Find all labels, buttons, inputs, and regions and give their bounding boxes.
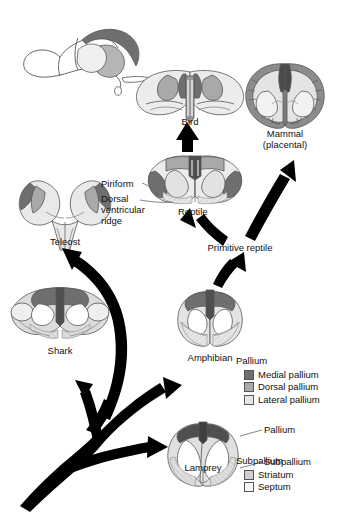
annotation-pallium-callout: Pallium <box>264 424 295 436</box>
swatch-striatum <box>244 470 254 480</box>
legend-item-striatum: Striatum <box>244 469 293 482</box>
figure-canvas: Bird Mammal (placental) Reptile Teleost … <box>0 0 341 522</box>
legend-label-dorsal-pallium: Dorsal pallium <box>258 381 318 394</box>
legend-item-lateral-pallium: Lateral pallium <box>244 394 320 407</box>
legend-subpallium-heading: Subpallium <box>236 455 293 468</box>
legend-item-septum: Septum <box>244 481 293 494</box>
legend-pallium: Pallium Medial pallium Dorsal pallium La… <box>236 355 320 406</box>
annotation-dvr-line1: Dorsal <box>101 193 128 205</box>
swatch-dorsal-pallium <box>244 382 254 392</box>
legend-label-medial-pallium: Medial pallium <box>258 369 319 382</box>
annotation-dvr-line3: ridge <box>101 215 122 227</box>
swatch-medial-pallium <box>244 370 254 380</box>
legend-subpallium: Subpallium Striatum Septum <box>236 455 293 494</box>
legend-label-septum: Septum <box>258 481 291 494</box>
leader-lines <box>0 0 341 522</box>
swatch-septum <box>244 482 254 492</box>
legend-item-medial-pallium: Medial pallium <box>244 369 320 382</box>
annotation-dvr-line2: ventricular <box>101 204 145 216</box>
swatch-lateral-pallium <box>244 395 254 405</box>
legend-label-striatum: Striatum <box>258 469 293 482</box>
legend-pallium-heading: Pallium <box>236 355 320 368</box>
legend-item-dorsal-pallium: Dorsal pallium <box>244 381 320 394</box>
legend-label-lateral-pallium: Lateral pallium <box>258 394 320 407</box>
